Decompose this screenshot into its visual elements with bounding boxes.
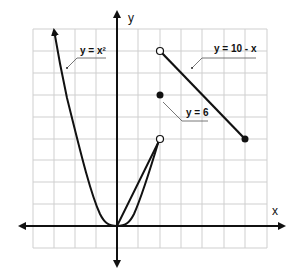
y-axis-label: y [128, 11, 134, 25]
parabola-curve [54, 30, 160, 226]
grid [33, 29, 267, 248]
svg-text:y = x²: y = x² [80, 45, 107, 56]
svg-text:y = 10 - x: y = 10 - x [214, 43, 257, 54]
closed-point-line-end [242, 136, 249, 143]
callout-parabola: y = x² [66, 45, 106, 69]
open-point-parabola-end [157, 136, 164, 143]
svg-text:y = 6: y = 6 [186, 107, 209, 118]
closed-point-y6 [157, 92, 164, 99]
piecewise-function-graph: x y y = x² y = 10 - x y = 6 [0, 0, 297, 275]
open-point-line-start [157, 48, 164, 55]
x-axis-label: x [272, 204, 278, 218]
